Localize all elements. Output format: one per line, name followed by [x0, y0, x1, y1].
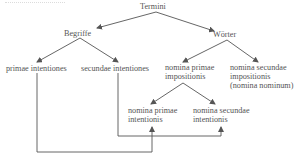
node-primae-intentiones: primae intentiones — [6, 64, 67, 73]
edge-woerter-primae — [183, 40, 227, 62]
edge-begriffe-secundae — [80, 38, 118, 62]
edge-termini-begriffe — [97, 12, 156, 28]
edge-woerter-secundae — [227, 40, 258, 62]
diagram-canvas: Termini Begriffe Wörter primae intention… — [0, 0, 299, 157]
edge-imp-primae-int — [151, 83, 183, 104]
connector-secundae — [118, 73, 221, 136]
node-nomina-secundae-impositionis: nomina secundae impositionis (nomina nom… — [230, 63, 293, 90]
node-secundae-intentiones: secundae intentiones — [81, 64, 149, 73]
node-nomina-secundae-intentionis: nomina secundae intentionis — [193, 106, 250, 124]
node-nomina-primae-intentionis: nomina primae intentionis — [128, 106, 177, 124]
node-termini: Termini — [140, 2, 166, 11]
node-begriffe: Begriffe — [64, 29, 91, 38]
node-nomina-primae-impositionis: nomina primae impositionis — [165, 63, 214, 81]
edge-begriffe-primae — [37, 38, 80, 62]
edge-termini-woerter — [156, 12, 214, 31]
node-woerter: Wörter — [213, 30, 236, 39]
edge-imp-secundae-int — [183, 83, 215, 104]
